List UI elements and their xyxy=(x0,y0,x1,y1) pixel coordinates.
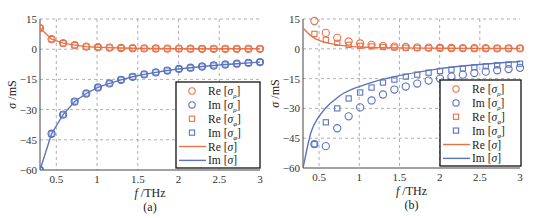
data-point-square xyxy=(369,85,374,90)
data-point-circle xyxy=(322,29,329,36)
legend-label: Im [σ] xyxy=(208,154,237,166)
data-point-square xyxy=(312,31,317,36)
data-point-circle xyxy=(368,97,375,104)
panel-b-chart: 0.511.522.53150−15−30−45−60f /THzσ /mS(b… xyxy=(268,13,524,212)
data-point-circle xyxy=(322,143,329,150)
y-tick-label: −60 xyxy=(283,162,301,174)
panel-label: (a) xyxy=(143,200,156,214)
data-point-square xyxy=(358,90,363,95)
data-point-circle xyxy=(357,104,364,111)
y-axis-label: σ /mS xyxy=(268,79,282,107)
panel-label: (b) xyxy=(405,198,419,212)
legend: Re [σρ]Im [σρ]Re [σφ]Im [σφ]Re [σ]Im [σ] xyxy=(440,80,521,166)
y-tick-label: 15 xyxy=(289,13,301,25)
y-tick-label: −60 xyxy=(20,164,38,176)
x-axis-label: f /THz xyxy=(135,186,166,200)
x-tick-label: 1 xyxy=(94,173,100,185)
x-tick-label: 2.5 xyxy=(212,173,226,185)
data-point-circle xyxy=(471,69,478,76)
y-axis-label: σ /mS xyxy=(5,80,19,108)
x-axis-label: f /THz xyxy=(396,184,427,198)
data-point-square xyxy=(312,142,317,147)
data-point-circle xyxy=(425,77,432,84)
y-tick-label: −15 xyxy=(283,73,301,85)
y-tick-label: −30 xyxy=(20,104,38,116)
y-tick-label: 0 xyxy=(32,43,38,55)
x-tick-label: 2.5 xyxy=(473,171,487,183)
data-point-circle xyxy=(402,83,409,90)
x-tick-label: 2 xyxy=(176,173,182,185)
x-tick-label: 1.5 xyxy=(131,173,145,185)
y-tick-label: 0 xyxy=(295,43,301,55)
data-point-circle xyxy=(448,73,455,80)
data-point-square xyxy=(392,77,397,82)
x-tick-label: 1 xyxy=(357,171,363,183)
data-point-square xyxy=(323,120,328,125)
x-tick-label: 0.5 xyxy=(49,173,63,185)
data-point-circle xyxy=(334,125,341,132)
legend-label: Im [σ] xyxy=(472,152,501,164)
y-tick-label: −45 xyxy=(20,134,38,146)
x-tick-label: 1.5 xyxy=(393,171,407,183)
data-point-circle xyxy=(391,86,398,93)
x-tick-label: 3 xyxy=(517,171,523,183)
figure: 0.511.522.53150−15−30−45−60f /THzσ /mS(a… xyxy=(0,0,534,218)
y-tick-label: −15 xyxy=(20,73,38,85)
data-point-circle xyxy=(414,80,421,87)
legend: Re [σρ]Im [σρ]Re [σφ]Im [σφ]Re [σ]Im [σ] xyxy=(176,82,260,168)
x-tick-label: 0.5 xyxy=(312,171,326,183)
y-tick-label: −45 xyxy=(283,132,301,144)
data-point-circle xyxy=(379,91,386,98)
data-point-square xyxy=(346,96,351,101)
data-point-circle xyxy=(459,71,466,78)
y-tick-label: −30 xyxy=(283,102,301,114)
data-point-square xyxy=(380,80,385,85)
x-tick-label: 3 xyxy=(257,173,263,185)
legend-label: Re [σ] xyxy=(472,139,501,151)
x-tick-label: 2 xyxy=(437,171,443,183)
y-tick-label: 15 xyxy=(26,13,38,25)
data-point-circle xyxy=(311,17,318,24)
legend-label: Re [σ] xyxy=(208,141,237,153)
panel-a-chart: 0.511.522.53150−15−30−45−60f /THzσ /mS(a… xyxy=(5,13,264,214)
data-point-circle xyxy=(345,113,352,120)
